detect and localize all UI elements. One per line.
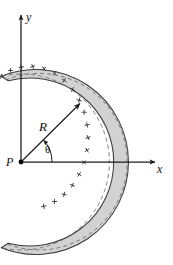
x-axis-label: x: [157, 163, 162, 175]
radius-label: R: [39, 120, 47, 133]
y-axis-label: y: [26, 11, 31, 23]
theta-angle-label: θ: [45, 144, 50, 155]
origin-point-label: P: [6, 156, 13, 168]
charged-rod: [0, 64, 128, 255]
origin-point: [19, 160, 24, 165]
figure-canvas: [0, 0, 173, 265]
radius-arrow: [23, 104, 81, 161]
physics-figure: y x P R θ: [0, 0, 173, 265]
